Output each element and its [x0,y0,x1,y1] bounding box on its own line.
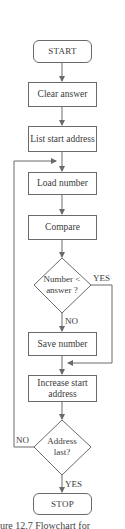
save-number-label: Save number [38,339,88,350]
load-number-label: Load number [37,178,88,189]
increase-start-address-label: Increase start address [29,378,96,400]
start-terminal: START [33,40,92,63]
list-start-address-box: List start address [28,126,97,152]
list-start-address-label: List start address [30,134,94,145]
clear-answer-box: Clear answer [28,82,97,107]
increase-start-address-box: Increase start address [28,375,97,402]
compare-label: Compare [45,222,80,233]
decision-number-label: Number < answer ? [38,274,86,296]
decision-address-label: Address last? [40,436,84,458]
yes-label-address: YES [65,479,82,489]
start-label: START [48,46,77,57]
stop-label: STOP [51,499,74,510]
address-last-decision: Address last? [40,434,84,460]
clear-answer-label: Clear answer [38,89,88,100]
load-number-box: Load number [28,172,97,195]
stop-terminal: STOP [33,493,92,515]
number-less-answer-decision: Number < answer ? [38,272,86,298]
save-number-box: Save number [28,332,97,356]
figure-caption: ure 12.7 Flowchart for [0,520,125,529]
no-label-address: NO [16,435,29,445]
no-label-number: NO [65,316,78,326]
compare-box: Compare [28,215,97,240]
yes-label-number: YES [93,273,110,283]
